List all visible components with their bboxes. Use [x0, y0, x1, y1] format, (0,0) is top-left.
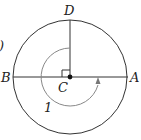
- label-d: D: [63, 3, 75, 18]
- label-a: A: [129, 70, 139, 85]
- label-b: B: [0, 70, 11, 85]
- center-point: [68, 75, 73, 80]
- label-angle-1: 1: [44, 100, 52, 115]
- geometry-diagram: D B A C 1 ): [0, 0, 141, 140]
- label-cropped: ): [0, 38, 4, 53]
- arrowhead-icon: [96, 77, 101, 84]
- label-c: C: [58, 80, 68, 95]
